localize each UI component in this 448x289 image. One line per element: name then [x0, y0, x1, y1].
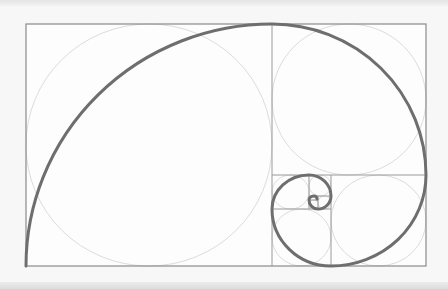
bottom-edge-strip: [0, 282, 448, 289]
golden-spiral-diagram: [0, 0, 448, 289]
frame-panel: [26, 24, 426, 266]
